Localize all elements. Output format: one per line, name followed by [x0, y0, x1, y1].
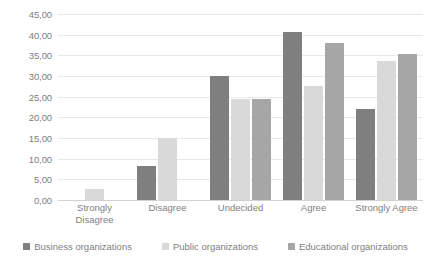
bar-group — [204, 14, 277, 200]
y-axis-tick-label: 20,00 — [29, 112, 52, 123]
y-axis-tick-label: 40,00 — [29, 29, 52, 40]
bar — [283, 32, 302, 200]
y-axis-tick-label: 10,00 — [29, 153, 52, 164]
legend-swatch-icon — [162, 243, 169, 250]
x-axis-category-label: Disagree — [131, 202, 204, 232]
bar-group — [350, 14, 423, 200]
bar-chart: 45,0040,0035,0030,0025,0020,0015,0010,00… — [0, 0, 431, 266]
legend-swatch-icon — [23, 243, 30, 250]
legend-swatch-icon — [288, 243, 295, 250]
bar — [398, 54, 417, 200]
bar — [304, 86, 323, 200]
bar-group — [277, 14, 350, 200]
legend-item[interactable]: Public organizations — [162, 241, 258, 252]
bar — [377, 61, 396, 200]
y-axis-tick-label: 15,00 — [29, 133, 52, 144]
bar — [252, 99, 271, 200]
bar — [137, 166, 156, 200]
axis-baseline — [58, 200, 423, 201]
bar — [158, 138, 177, 200]
bar-group — [58, 14, 131, 200]
bar-groups — [58, 14, 423, 200]
chart-legend: Business organizationsPublic organizatio… — [0, 241, 431, 252]
x-axis: Strongly DisagreeDisagreeUndecidedAgreeS… — [58, 202, 423, 232]
legend-label: Business organizations — [34, 241, 132, 252]
legend-item[interactable]: Educational organizations — [288, 241, 408, 252]
bar — [210, 76, 229, 200]
legend-label: Educational organizations — [299, 241, 408, 252]
y-axis-tick-label: 30,00 — [29, 71, 52, 82]
legend-label: Public organizations — [173, 241, 258, 252]
y-axis-tick-label: 45,00 — [29, 9, 52, 20]
x-axis-category-label: Undecided — [204, 202, 277, 232]
y-axis: 45,0040,0035,0030,0025,0020,0015,0010,00… — [0, 0, 58, 200]
bar — [231, 99, 250, 200]
x-axis-category-label: Strongly Disagree — [58, 202, 131, 232]
y-axis-tick-label: 25,00 — [29, 91, 52, 102]
bar — [85, 189, 104, 200]
bar-group — [131, 14, 204, 200]
bar — [325, 43, 344, 200]
plot-area — [58, 14, 423, 200]
legend-item[interactable]: Business organizations — [23, 241, 132, 252]
y-axis-tick-label: 0,00 — [34, 195, 52, 206]
bar — [356, 109, 375, 200]
y-axis-tick-label: 35,00 — [29, 50, 52, 61]
x-axis-category-label: Agree — [277, 202, 350, 232]
x-axis-category-label: Strongly Agree — [350, 202, 423, 232]
y-axis-tick-label: 5,00 — [34, 174, 52, 185]
